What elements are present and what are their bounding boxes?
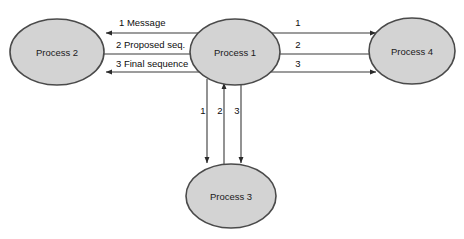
diagram-canvas: 1 Message 2 Proposed seq. 3 Final sequen… (0, 0, 464, 239)
edge-label-2-proposed-seq: 2 Proposed seq. (116, 39, 185, 50)
edge-label-3-final-sequence: 3 Final sequence (116, 58, 188, 69)
edge-label-right-2: 2 (295, 39, 300, 50)
edge-p1-p3-seq-3[interactable]: 3 (234, 79, 241, 163)
edge-label-bottom-1: 1 (200, 105, 205, 116)
edge-p1-p4-seq-3[interactable]: 3 (266, 58, 376, 72)
edge-label-right-1: 1 (295, 17, 300, 28)
edge-label-bottom-3: 3 (234, 105, 239, 116)
edge-label-bottom-2: 2 (217, 105, 222, 116)
node-process-1[interactable]: Process 1 (190, 19, 280, 85)
edge-p1-p4-seq-1[interactable]: 1 (268, 17, 376, 33)
edge-label-right-3: 3 (295, 58, 300, 69)
edge-group-p1-p4: 1 2 3 (266, 17, 380, 72)
node-process-4[interactable]: Process 4 (369, 18, 455, 84)
node-process-2[interactable]: Process 2 (10, 19, 104, 85)
edge-p3-p1-seq-2[interactable]: 2 (217, 83, 224, 168)
node-process-3[interactable]: Process 3 (186, 164, 276, 228)
edge-label-1-message: 1 Message (119, 17, 165, 28)
node-label-process-3: Process 3 (210, 191, 252, 202)
node-label-process-1: Process 1 (214, 47, 256, 58)
edge-p2-p1-proposed-seq[interactable]: 2 Proposed seq. (104, 39, 198, 54)
edge-p4-p1-seq-2[interactable]: 2 (274, 39, 380, 54)
diagram-svg: 1 Message 2 Proposed seq. 3 Final sequen… (0, 0, 464, 239)
node-label-process-4: Process 4 (391, 46, 433, 57)
edge-group-p1-p3: 1 2 3 (200, 79, 241, 168)
node-label-process-2: Process 2 (36, 47, 78, 58)
edge-p1-p3-seq-1[interactable]: 1 (200, 79, 207, 163)
